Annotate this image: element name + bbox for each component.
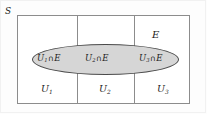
intersection-label-u3-e: U3∩E [139, 54, 162, 63]
intersection-label-u1-e: U1∩E [37, 54, 60, 63]
venn-partition-figure: S E U1∩E U2∩E U3∩E U1 U2 U3 [0, 0, 207, 114]
partition-label-u3: U3 [157, 84, 169, 94]
intersection-label-u2-e: U2∩E [85, 54, 108, 63]
event-label: E [152, 30, 159, 40]
partition-label-u2: U2 [99, 84, 111, 94]
sample-space-label: S [5, 7, 11, 16]
partition-label-u1: U1 [41, 84, 53, 94]
